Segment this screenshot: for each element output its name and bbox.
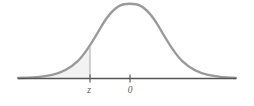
normal-curve-figure: z 0 bbox=[0, 0, 254, 106]
axis-tick-label-zero: 0 bbox=[128, 85, 133, 95]
axis-tick-label-z: z bbox=[86, 85, 91, 95]
bell-curve-path bbox=[18, 4, 236, 78]
normal-curve-diagram: z 0 bbox=[0, 0, 254, 106]
